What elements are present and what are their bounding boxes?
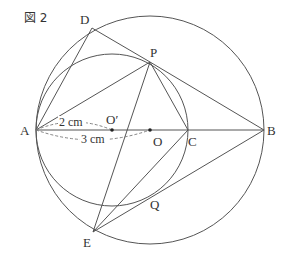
- point-label-B: B: [267, 123, 276, 138]
- center-point-O-prime: [110, 128, 114, 132]
- geometry-figure: 図 2 2 cm 3 cm A B C O O′ D P E Q: [0, 0, 291, 259]
- point-label-Q: Q: [150, 197, 160, 212]
- dimension-label-3cm: 3 cm: [81, 132, 105, 146]
- point-label-O: O: [153, 134, 162, 149]
- segment-PC: [150, 62, 188, 130]
- point-label-E: E: [83, 235, 91, 250]
- point-label-C: C: [188, 134, 197, 149]
- point-label-D: D: [80, 12, 89, 27]
- segment-AP: [36, 62, 150, 130]
- segment-DP: [92, 28, 150, 62]
- segment-EB: [93, 130, 264, 232]
- center-point-O: [148, 128, 152, 132]
- segment-PB: [150, 62, 264, 130]
- dimension-label-2cm: 2 cm: [59, 115, 83, 129]
- segment-PE: [93, 62, 150, 232]
- point-label-A: A: [20, 123, 30, 138]
- point-label-O-prime: O′: [106, 112, 118, 127]
- point-label-P: P: [150, 45, 157, 60]
- segment-EC: [93, 130, 188, 232]
- figure-title: 図 2: [24, 11, 47, 25]
